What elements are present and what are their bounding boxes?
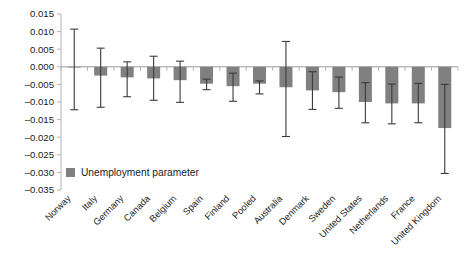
y-tick-label: –0.020 [25, 132, 54, 143]
category-label-norway: Norway [43, 193, 73, 223]
category-label-belgium: Belgium [148, 193, 179, 224]
y-tick-label: –0.030 [25, 167, 54, 178]
error-bar-norway [70, 29, 78, 110]
category-label-canada: Canada [122, 193, 153, 224]
y-tick-label: –0.015 [25, 114, 54, 125]
y-axis-tick-labels: 0.0150.0100.0050.000–0.005–0.010–0.015–0… [25, 8, 54, 195]
chart-canvas: 0.0150.0100.0050.000–0.005–0.010–0.015–0… [0, 0, 467, 274]
y-tick-label: –0.035 [25, 184, 54, 195]
category-label-denmark: Denmark [277, 193, 311, 227]
y-tick-label: 0.015 [30, 8, 54, 19]
category-label-united-kingdom: United Kingdom [389, 193, 443, 247]
unemployment-parameter-chart: 0.0150.0100.0050.000–0.005–0.010–0.015–0… [0, 0, 467, 274]
y-tick-label: 0.010 [30, 26, 54, 37]
legend-swatch-unemployment-parameter [66, 168, 75, 177]
error-bar-italy [97, 48, 105, 107]
category-labels-group: NorwayItalyGermanyCanadaBelgiumSpainFinl… [43, 193, 443, 247]
y-axis-group: 0.0150.0100.0050.000–0.005–0.010–0.015–0… [25, 8, 61, 195]
bar-series-unemployment-parameter [68, 67, 452, 128]
y-axis-ticks [57, 14, 61, 190]
error-bars-group [70, 29, 449, 173]
error-bar-australia [282, 41, 290, 136]
y-tick-label: –0.010 [25, 96, 54, 107]
category-label-spain: Spain [181, 193, 205, 217]
chart-legend: Unemployment parameter [66, 167, 199, 178]
y-tick-label: –0.025 [25, 149, 54, 160]
legend-label-unemployment-parameter: Unemployment parameter [81, 167, 199, 178]
category-label-finland: Finland [203, 193, 232, 222]
y-tick-label: –0.005 [25, 79, 54, 90]
y-tick-label: 0.000 [30, 61, 54, 72]
category-label-italy: Italy [80, 193, 99, 212]
y-tick-label: 0.005 [30, 44, 54, 55]
